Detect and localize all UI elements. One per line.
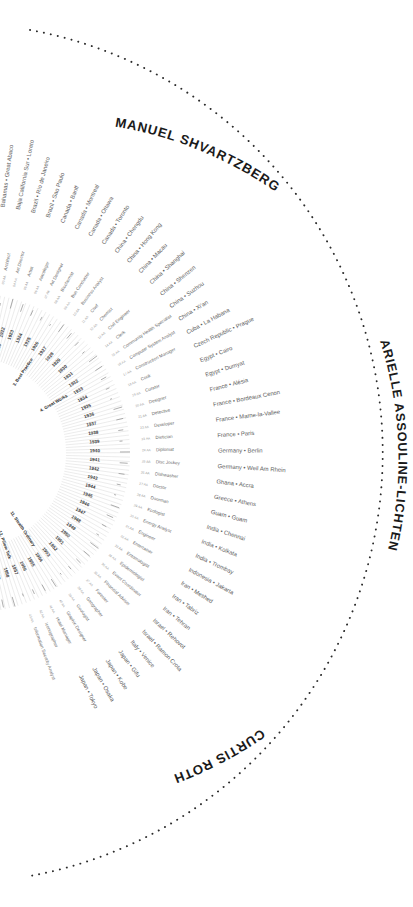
author-name-3: CURTIS ROTH (171, 726, 267, 786)
year-label: 1923 (7, 329, 15, 341)
profession-label: Diplomat (156, 447, 175, 452)
location-ring: Bahamas • Great AbacoBaja California Sur… (0, 139, 286, 710)
year-label: 1930 (57, 364, 68, 375)
profession-number: 43 AA (28, 614, 35, 624)
year-tick (119, 473, 125, 474)
year-tick (120, 463, 128, 464)
location-label: Canada • Banff (59, 185, 80, 224)
year-label: 1945 (82, 491, 94, 499)
location-label: Baja California Sur • Loreto (15, 139, 35, 211)
profession-number: 23 AA (141, 436, 151, 441)
year-label: 1954 (34, 552, 44, 564)
profession-label: Dietician (155, 434, 173, 440)
profession-label: Developer (154, 420, 176, 428)
year-tick (10, 299, 13, 309)
year-label: 1943 (87, 474, 98, 481)
year-tick (96, 534, 99, 536)
profession-number: 31 AA (125, 524, 135, 532)
location-label: India • Kolkata (201, 538, 239, 558)
profession-label: Ecologist (147, 507, 167, 518)
location-label: Japan • Tokyo (78, 674, 100, 710)
profession-number: 10 AA (72, 307, 81, 317)
profession-number: 03 AA (1, 274, 7, 284)
profession-label: Forester (94, 588, 109, 604)
location-label: China • Xi'an (177, 299, 209, 322)
year-label: 1941 (89, 457, 100, 463)
year-tick (32, 589, 34, 594)
profession-number: 41 AA (48, 604, 56, 614)
profession-number: 05 AA (23, 280, 30, 290)
profession-number: 29 AA (133, 503, 143, 510)
profession-label: Architect (3, 252, 12, 271)
profession-number: 36 AA (93, 570, 103, 580)
profession-number: 37 AA (85, 578, 94, 588)
location-label: France • Alésia (209, 377, 249, 393)
profession-number: 22 AA (140, 425, 150, 430)
profession-label: Detective (151, 407, 171, 416)
profession-number: 38 AA (76, 586, 85, 596)
profession-label: Art Designer (49, 262, 65, 287)
location-label: Bahamas • Great Abaco (0, 144, 14, 208)
year-tick (102, 524, 106, 526)
location-label: India • Chennai (206, 524, 246, 542)
profession-number: 42 AA (38, 609, 46, 619)
profession-number: 14 AA (104, 340, 114, 349)
section-marker: 2. Trojan Horses (0, 343, 2, 378)
year-tick (111, 505, 119, 508)
profession-label: Doctor (153, 483, 167, 490)
profession-label: Art Director (15, 250, 26, 274)
year-tick (114, 495, 116, 496)
year-tick (110, 399, 112, 400)
year-tick (95, 366, 102, 370)
profession-number: 40 AA (58, 599, 66, 609)
year-label: 1946 (79, 499, 91, 508)
year-label: 1925 (23, 336, 32, 348)
profession-number: 27 AA (139, 482, 149, 488)
profession-label: Designer (148, 395, 167, 405)
profession-number: 39 AA (67, 592, 76, 602)
profession-number: 15 AA (111, 349, 121, 358)
profession-label: Computer System Analyst (129, 329, 177, 360)
year-label: 1937 (86, 420, 98, 427)
year-label: 1929 (51, 357, 62, 368)
profession-label: Iconographer (44, 622, 59, 649)
year-label: 1951 (54, 535, 65, 546)
year-tick (12, 597, 15, 607)
profession-number: 33 AA (114, 544, 124, 553)
year-tick (118, 430, 123, 431)
profession-label: Chef (89, 303, 100, 314)
year-tick (68, 566, 71, 569)
profession-number: 06 AA (33, 284, 40, 294)
profession-number: 34 AA (108, 553, 118, 562)
year-label: 1936 (83, 411, 95, 419)
profession-label: Dishwasher (155, 471, 179, 479)
spoke-line (11, 308, 38, 366)
year-tick (22, 594, 23, 597)
profession-number: 25 AA (142, 459, 152, 464)
year-tick (84, 551, 90, 556)
profession-label: Artist (26, 265, 34, 277)
location-label: Germany • Berlin (218, 448, 263, 454)
profession-label: Entertainer (132, 540, 154, 555)
profession-label: Cook (140, 373, 152, 382)
profession-number: 26 AA (141, 471, 151, 476)
year-tick (117, 484, 121, 485)
profession-number: 11 AA (81, 314, 90, 324)
year-label: 1922 (0, 326, 6, 338)
spoke-line (57, 494, 115, 521)
location-label: France • Marne-la-Vallee (215, 409, 281, 423)
profession-number: 19 AA (132, 391, 142, 398)
year-tick (106, 388, 110, 390)
radial-infographic-canvas: Zimmer & CompanyTuttle Bros and Associat… (0, 0, 413, 907)
profession-label: Chemist (98, 306, 114, 322)
profession-number: 08 AA (53, 294, 61, 304)
location-label: Germany • Weil Am Rhein (217, 463, 285, 473)
year-label: 1953 (41, 546, 51, 558)
outer-dotted-arc (30, 30, 383, 876)
profession-number: 07 AA (43, 289, 51, 299)
year-label: 1952 (48, 541, 59, 552)
section-marker-ring: 2. Trojan Horses3. Best Practice4. Great… (0, 343, 69, 560)
location-label: Ghana • Accra (216, 478, 255, 489)
profession-number: 13 AA (97, 331, 107, 340)
year-label: 1934 (77, 394, 89, 403)
